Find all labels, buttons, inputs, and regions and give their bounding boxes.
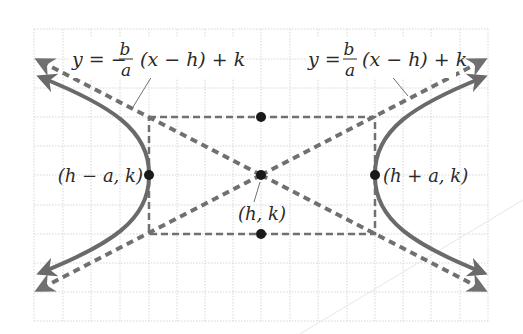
svg-text:a: a	[345, 60, 355, 80]
svg-text:b: b	[120, 39, 131, 59]
svg-text:a: a	[121, 60, 131, 80]
hyperbola-diagram: y = − b a (x − h) + k y = b a (x − h) + …	[0, 0, 523, 334]
leader-center	[254, 182, 260, 202]
svg-text:b: b	[344, 39, 355, 59]
svg-text:y = −: y = −	[71, 48, 127, 70]
left-vertex-point	[144, 170, 154, 180]
right-vertex-point	[370, 170, 380, 180]
svg-text:(x − h) + k: (x − h) + k	[362, 48, 467, 70]
left-branch-lower	[40, 175, 149, 273]
svg-text:(x − h) + k: (x − h) + k	[140, 48, 245, 70]
svg-text:y =: y =	[307, 48, 341, 70]
asymptote-negative-lower	[261, 175, 484, 290]
background-stroke	[300, 200, 523, 334]
co-vertex-bottom-point	[256, 229, 266, 239]
right-asymptote-equation: y = b a (x − h) + k	[306, 38, 467, 80]
right-vertex-label: (h + a, k)	[383, 165, 468, 186]
center-point	[256, 170, 266, 180]
left-asymptote-equation: y = − b a (x − h) + k	[70, 38, 245, 80]
left-branch-upper	[40, 77, 149, 175]
right-branch-upper	[375, 77, 484, 175]
co-vertex-top-point	[256, 112, 266, 122]
left-vertex-label: (h − a, k)	[58, 165, 143, 186]
right-branch-lower	[375, 175, 484, 273]
center-label: (h, k)	[238, 203, 286, 224]
